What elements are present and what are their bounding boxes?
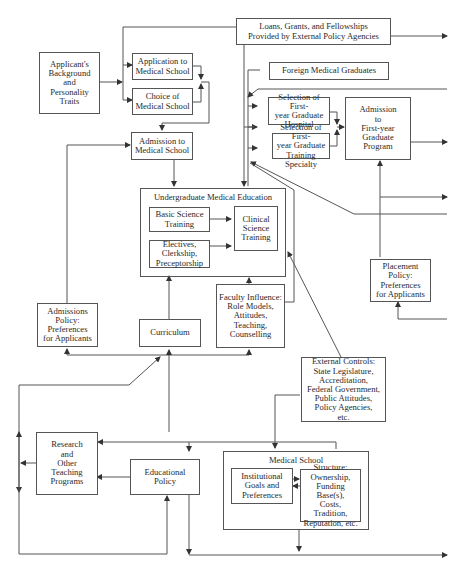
admission-first-year-box: Admission to First-year Graduate Program: [345, 97, 411, 160]
clinical-science-label: Clinical Science Training: [241, 215, 270, 243]
external-controls-label: External Controls: State Legislature, Ac…: [307, 357, 380, 421]
educational-policy-label: Educational Policy: [144, 468, 185, 486]
structure-box: Structure: Ownership, Funding Base(s), C…: [300, 469, 361, 522]
clinical-science-box: Clinical Science Training: [234, 206, 278, 251]
research-programs-label: Research and Other Teaching Programs: [51, 440, 84, 486]
admissions-policy-label: Admissions Policy: Preferences for Appli…: [43, 307, 92, 344]
electives-label: Electives, Clerkship, Preceptorship: [156, 240, 203, 268]
institutional-goals-box: Institutional Goals and Preferences: [231, 468, 293, 504]
educational-policy-box: Educational Policy: [130, 459, 200, 495]
faculty-influence-label: Faculty Influence: Role Models, Attitude…: [219, 293, 282, 339]
structure-label: Structure: Ownership, Funding Base(s), C…: [303, 463, 358, 527]
loans-grants-box: Loans, Grants, and Fellowships Provided …: [236, 18, 391, 45]
foreign-med-grads-box: Foreign Medical Graduates: [269, 62, 389, 80]
choice-of-med-school-box: Choice of Medical School: [132, 88, 193, 115]
placement-policy-label: Placement Policy: Preferences for Applic…: [376, 262, 425, 299]
institutional-goals-label: Institutional Goals and Preferences: [241, 472, 283, 500]
curriculum-box: Curriculum: [139, 319, 201, 347]
selection-specialty-label: Selection of First- year Graduate Traini…: [275, 123, 327, 169]
undergrad-med-ed-label: Undergraduate Medical Education: [154, 193, 272, 202]
choice-label: Choice of Medical School: [135, 92, 189, 110]
curriculum-label: Curriculum: [150, 328, 190, 337]
faculty-influence-box: Faculty Influence: Role Models, Attitude…: [216, 284, 285, 348]
application-to-med-school-box: Application to Medical School: [132, 53, 193, 80]
applicant-background-label: Applicant's Background and Personality T…: [48, 60, 90, 106]
external-controls-box: External Controls: State Legislature, Ac…: [301, 357, 386, 422]
placement-policy-box: Placement Policy: Preferences for Applic…: [370, 259, 431, 302]
admission-to-med-school-box: Admission to Medical School: [131, 132, 193, 160]
application-label: Application to Medical School: [135, 57, 189, 75]
loans-grants-label: Loans, Grants, and Fellowships Provided …: [248, 22, 379, 40]
research-programs-box: Research and Other Teaching Programs: [36, 432, 98, 495]
admission-label: Admission to Medical School: [135, 137, 189, 155]
admission-first-year-label: Admission to First-year Graduate Program: [359, 105, 396, 151]
foreign-med-grads-label: Foreign Medical Graduates: [282, 66, 376, 75]
basic-science-box: Basic Science Training: [149, 207, 210, 232]
selection-hospital-box: Selection of First- year Graduate Hospit…: [268, 97, 330, 125]
basic-science-label: Basic Science Training: [156, 210, 204, 228]
applicant-background-box: Applicant's Background and Personality T…: [39, 52, 100, 114]
electives-box: Electives, Clerkship, Preceptorship: [149, 240, 210, 268]
selection-specialty-box: Selection of First- year Graduate Traini…: [272, 133, 330, 159]
admissions-policy-box: Admissions Policy: Preferences for Appli…: [37, 303, 98, 347]
